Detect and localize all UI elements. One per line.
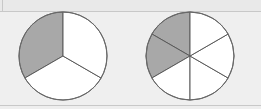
bottom-band <box>0 106 261 109</box>
figure-canvas <box>0 0 261 109</box>
pie-chart-thirds <box>17 10 109 102</box>
pie-chart-sixths <box>144 10 236 102</box>
left-edge-rule <box>2 0 3 11</box>
